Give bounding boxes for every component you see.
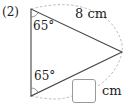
angle-arc-top (31, 13, 38, 17)
angle-bottom-label: 65° (34, 70, 55, 82)
side-length-arc-bottom-right (98, 52, 122, 86)
side-length-arc-bottom-left (31, 96, 72, 99)
answer-unit-label: cm (102, 84, 122, 97)
triangle-diagram: (2) 65° 65° 8 cm cm (0, 0, 131, 108)
problem-number: (2) (2, 6, 19, 18)
angle-arc-bottom (31, 88, 38, 92)
angle-top-label: 65° (33, 20, 54, 32)
side-length-label: 8 cm (75, 7, 107, 20)
answer-input-box[interactable] (72, 79, 96, 103)
